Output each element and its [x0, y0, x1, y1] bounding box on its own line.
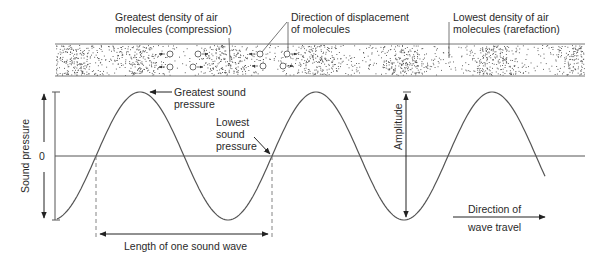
y-axis-label: Sound pressure [19, 119, 31, 193]
direction-label-line2: wave travel [468, 221, 521, 233]
greatest-pressure-label-line2: pressure [174, 98, 215, 110]
displacement-label-line1: Direction of displacement [291, 11, 409, 23]
wavelength-label: Length of one sound wave [124, 240, 247, 252]
zero-label: 0 [39, 150, 45, 162]
lowest-pressure-label-line2: sound [216, 128, 245, 140]
compression-label-line1: Greatest density of air [115, 11, 218, 23]
lowest-pressure-label-line3: pressure [216, 140, 257, 152]
displacement-label-line2: of molecules [291, 23, 350, 35]
sound-wave-diagram: Greatest density of air molecules (compr… [0, 0, 602, 260]
rarefaction-label-line2: molecules (rarefaction) [453, 23, 560, 35]
greatest-pressure-label-line1: Greatest sound [174, 86, 246, 98]
direction-label-line1: Direction of [468, 203, 521, 215]
rarefaction-label-line1: Lowest density of air [453, 11, 549, 23]
lowest-pressure-label-line1: Lowest [216, 116, 249, 128]
wave-plot [44, 92, 585, 238]
compression-label-line2: molecules (compression) [115, 23, 232, 35]
amplitude-label: Amplitude [392, 103, 404, 150]
